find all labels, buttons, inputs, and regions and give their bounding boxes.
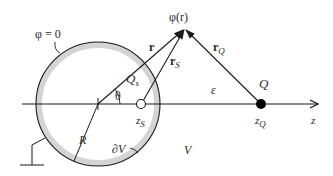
label-theta: θ bbox=[115, 90, 121, 102]
label-image-position: zS bbox=[136, 115, 145, 126]
label-vector-rQ-sub: Q bbox=[218, 46, 225, 56]
label-charge: Q bbox=[259, 77, 268, 90]
label-vector-rS-sub: S bbox=[175, 60, 180, 70]
charge-marker bbox=[256, 99, 266, 109]
label-permittivity: ε bbox=[211, 84, 216, 96]
label-phi-zero: φ = 0 bbox=[35, 28, 61, 40]
ground-symbol bbox=[20, 138, 45, 165]
label-field-point-text: φ(r) bbox=[169, 10, 188, 24]
label-vector-rQ: rQ bbox=[213, 41, 225, 53]
label-field-point: φ(r) bbox=[169, 11, 188, 23]
label-image-position-sub: S bbox=[140, 119, 145, 129]
label-image-charge: Qs bbox=[126, 72, 139, 85]
label-vector-rS: rS bbox=[170, 55, 180, 67]
label-surface: ∂V bbox=[112, 143, 125, 155]
image-charge-marker bbox=[137, 100, 146, 109]
potential-leader bbox=[55, 42, 60, 53]
label-z-axis: z bbox=[311, 115, 315, 126]
label-image-charge-sub: s bbox=[135, 78, 139, 88]
label-radius: R bbox=[79, 134, 86, 146]
diagram-canvas: φ = 0 φ(r) r rS rQ θ Qs zS ε Q zQ z R ∂V… bbox=[0, 0, 333, 176]
label-charge-position-sub: Q bbox=[259, 119, 266, 129]
label-charge-position: zQ bbox=[255, 115, 266, 126]
label-vector-r: r bbox=[149, 41, 154, 53]
label-volume: V bbox=[184, 144, 191, 156]
label-image-charge-main: Q bbox=[126, 71, 135, 86]
